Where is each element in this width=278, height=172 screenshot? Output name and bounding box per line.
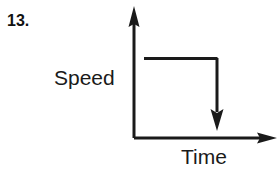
x-axis-label: Time — [181, 145, 227, 169]
speed-time-graph-svg — [0, 0, 278, 172]
y-axis-up-arrow-icon — [129, 6, 140, 27]
figure-page: 13. Speed Time — [0, 0, 278, 172]
x-axis-right-arrow-icon — [257, 133, 277, 144]
y-axis-label: Speed — [54, 66, 115, 90]
speed-drop-down-arrow-icon — [211, 109, 224, 131]
